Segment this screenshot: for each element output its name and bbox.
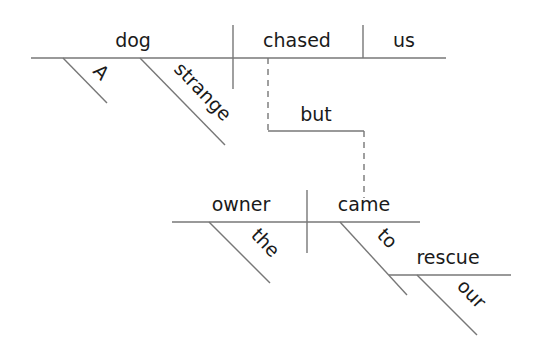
clause2-verb: came [338,193,390,215]
modifier-a: A [89,59,114,84]
clause1-verb: chased [263,29,331,51]
clause2-subject: owner [212,193,271,215]
modifier-strange: strange [170,57,236,125]
clause1-object: us [393,29,415,51]
preposition-to: to [373,223,402,252]
conjunction: but [300,103,332,125]
clause1-subject: dog [115,29,151,51]
modifier-our: our [453,274,491,312]
modifier-the: the [247,223,284,261]
sentence-diagram: dog chased us A strange but owner came t… [0,0,538,346]
prepositional-object: rescue [416,246,479,268]
